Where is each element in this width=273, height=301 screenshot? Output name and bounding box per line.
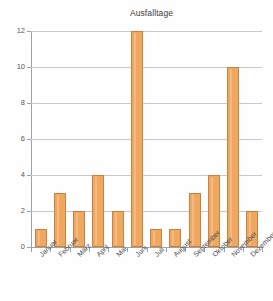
bar-highlight — [134, 33, 136, 245]
bar — [112, 211, 124, 247]
bar-highlight — [38, 231, 40, 245]
y-tick-mark — [27, 67, 31, 68]
y-tick-mark — [27, 175, 31, 176]
y-tick-label: 2 — [0, 206, 25, 215]
chart-title: Ausfalltage — [0, 8, 273, 18]
bar-highlight — [153, 231, 155, 245]
y-tick-label: 6 — [0, 134, 25, 143]
bar-highlight — [115, 213, 117, 245]
y-tick-label: 12 — [0, 26, 25, 35]
y-tick-label: 8 — [0, 98, 25, 107]
y-tick-label: 4 — [0, 170, 25, 179]
y-tick-mark — [27, 103, 31, 104]
y-tick-mark — [27, 139, 31, 140]
bar-highlight — [172, 231, 174, 245]
bar — [131, 31, 143, 247]
x-tick-mark — [166, 248, 167, 252]
y-tick-mark — [27, 211, 31, 212]
bar-highlight — [57, 195, 59, 245]
y-tick-mark — [27, 31, 31, 32]
bar — [54, 193, 66, 247]
bar-highlight — [95, 177, 97, 245]
bar-chart: Ausfalltage 024681012 JanuarFebruarMärzA… — [0, 0, 273, 301]
gridline — [31, 31, 262, 32]
bar — [189, 193, 201, 247]
bar-highlight — [192, 195, 194, 245]
y-tick-label: 10 — [0, 62, 25, 71]
x-tick-mark — [31, 248, 32, 252]
bar — [92, 175, 104, 247]
y-tick-label: 0 — [0, 242, 25, 251]
bar — [227, 67, 239, 247]
bar-highlight — [230, 69, 232, 245]
